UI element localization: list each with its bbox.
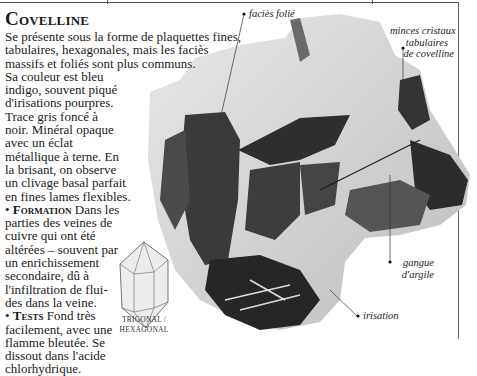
body-line: Trace gris foncé à	[5, 110, 241, 123]
body-line: secondaire, dû à	[5, 269, 241, 282]
body-line: en fines lames flexibles.	[5, 190, 241, 203]
label-facies-folie: faciès folié	[249, 8, 295, 20]
body-line: avec un éclat	[5, 136, 241, 149]
body-line: Sa couleur est bleu	[5, 70, 241, 83]
body-line: cuivre qui ont été	[5, 229, 241, 242]
label-gangue-argile: gangue d'argile	[396, 257, 434, 280]
body-line: dissout dans l'acide	[5, 349, 241, 362]
body-line: un enrichissement	[5, 256, 241, 269]
formation-section: • Formation Dans les	[5, 203, 241, 216]
body-line: un clivage basal parfait	[5, 176, 241, 189]
body-line: altérées – souvent par	[5, 243, 241, 256]
body-line: métallique à terne. En	[5, 150, 241, 163]
body-line: des dans la veine.	[5, 296, 241, 309]
body-line: chlorhydrique.	[5, 362, 241, 375]
body-line: massifs et foliés sont plus communs.	[5, 57, 241, 70]
crystal-system-caption: TRIGONAL / HEXAGONAL	[112, 315, 176, 334]
bullet-icon: •	[5, 308, 10, 323]
label-minces-cristaux: minces cristaux tabulaires de covelline	[390, 25, 454, 60]
tests-heading: Tests	[13, 308, 44, 323]
body-line: Se présente sous la forme de plaquettes …	[5, 30, 241, 43]
body-line: l'infiltration de flui-	[5, 283, 241, 296]
body-line: indigo, souvent piqué	[5, 83, 241, 96]
body-line: parties des veines de	[5, 216, 241, 229]
label-irisation: irisation	[363, 310, 399, 322]
body-line: d'irisations pourpres.	[5, 96, 241, 109]
body-line: tabulaires, hexagonales, mais les faciès	[5, 43, 241, 56]
body-line: noir. Minéral opaque	[5, 123, 241, 136]
body-line: flamme bleutée. Se	[5, 336, 241, 349]
page-title: Covelline	[5, 9, 89, 29]
body-line: la brisant, on observe	[5, 163, 241, 176]
